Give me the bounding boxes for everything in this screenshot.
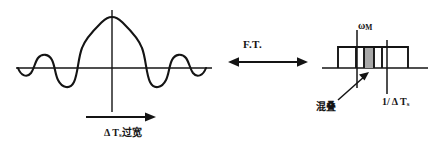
- spectrum-replica-right: [374, 47, 408, 68]
- sampling-rate-delta: Δ T: [392, 96, 407, 107]
- bidirectional-arrow: [228, 57, 308, 67]
- omega-m-label: ωM: [358, 21, 372, 32]
- frequency-domain-panel: [322, 30, 428, 100]
- delta-ts-suffix: 过宽: [122, 127, 142, 138]
- omega-subscript: M: [365, 23, 372, 32]
- figure-canvas: [0, 0, 441, 149]
- delta-ts-caption: Δ Ts过宽: [104, 128, 142, 139]
- spectrum-replica-left: [338, 47, 364, 68]
- ft-label: F.T.: [243, 39, 262, 50]
- figure-root: F.T. ωM 1/ Δ Ts 混叠 Δ Ts过宽: [0, 0, 441, 149]
- width-indicator-arrow: [86, 113, 156, 122]
- delta-ts-prefix: Δ T: [104, 127, 119, 138]
- alias-label: 混叠: [316, 102, 336, 112]
- alias-callout-arrow: [338, 72, 369, 100]
- sampling-rate-subscript: s: [407, 100, 410, 108]
- aliasing-overlap-region: [364, 47, 374, 68]
- sampling-rate-label: 1/ Δ Ts: [382, 97, 409, 108]
- time-domain-panel: [16, 10, 212, 122]
- sampling-rate-prefix: 1/: [382, 96, 392, 107]
